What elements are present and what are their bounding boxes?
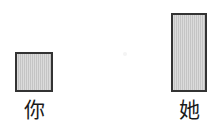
bar-column-0[interactable]	[15, 52, 53, 92]
bar-chart: 你 她	[0, 0, 222, 127]
bar-label-1: 她	[171, 100, 207, 121]
bar-column-1[interactable]	[171, 13, 207, 92]
scan-artifact-speck	[123, 52, 127, 56]
bar-label-0: 你	[15, 100, 53, 121]
